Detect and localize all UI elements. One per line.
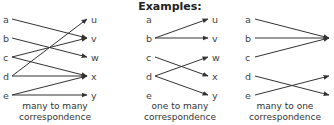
right-label-y: y xyxy=(212,90,218,101)
right-label-v: v xyxy=(212,33,218,44)
left-label-d: d xyxy=(3,71,9,82)
left-label-d: d xyxy=(146,71,152,82)
left-label-c: c xyxy=(245,52,250,63)
right-label-u: u xyxy=(212,14,218,25)
right-label-x: x xyxy=(212,71,218,82)
arrow-c-to-x xyxy=(12,57,87,76)
left-label-a: a xyxy=(146,14,152,25)
arrow-a-to-v xyxy=(12,19,87,38)
left-label-a: a xyxy=(245,14,251,25)
right-label-w: w xyxy=(212,52,220,63)
right-label-w: w xyxy=(91,52,99,63)
left-label-c: c xyxy=(3,52,8,63)
caption-line-2: correspondence xyxy=(235,112,334,123)
arrow-e-to-x xyxy=(12,76,87,95)
arrow-c-to-v xyxy=(255,38,329,57)
left-label-b: b xyxy=(3,33,9,44)
arrow-a-to-v xyxy=(255,19,329,38)
many-to-many-caption: many to many correspondence xyxy=(5,101,105,123)
left-label-a: a xyxy=(3,14,9,25)
caption-line-2: correspondence xyxy=(130,112,230,123)
left-label-c: c xyxy=(146,52,151,63)
left-label-e: e xyxy=(146,90,152,101)
caption-line-1: one to many xyxy=(130,101,230,112)
many-to-one-panel: abcde xyxy=(245,14,329,101)
caption-line-1: many to many xyxy=(5,101,105,112)
many-to-one-caption: many to one correspondence xyxy=(235,101,334,123)
left-label-e: e xyxy=(3,90,9,101)
left-label-b: b xyxy=(146,33,152,44)
one-to-many-panel: abcdeuvwxy xyxy=(146,14,220,101)
caption-line-1: many to one xyxy=(235,101,334,112)
arrow-d-to-y xyxy=(155,76,208,95)
one-to-many-caption: one to many correspondence xyxy=(130,101,230,123)
right-label-v: v xyxy=(91,33,97,44)
right-label-u: u xyxy=(91,14,97,25)
arrow-b-to-u xyxy=(155,19,208,38)
right-label-x: x xyxy=(91,71,97,82)
left-label-e: e xyxy=(245,90,251,101)
left-label-b: b xyxy=(245,33,251,44)
right-label-y: y xyxy=(91,90,97,101)
arrow-d-to-u xyxy=(12,19,87,76)
many-to-many-panel: abcdeuvwxy xyxy=(3,14,99,101)
left-label-d: d xyxy=(245,71,251,82)
caption-line-2: correspondence xyxy=(5,112,105,123)
